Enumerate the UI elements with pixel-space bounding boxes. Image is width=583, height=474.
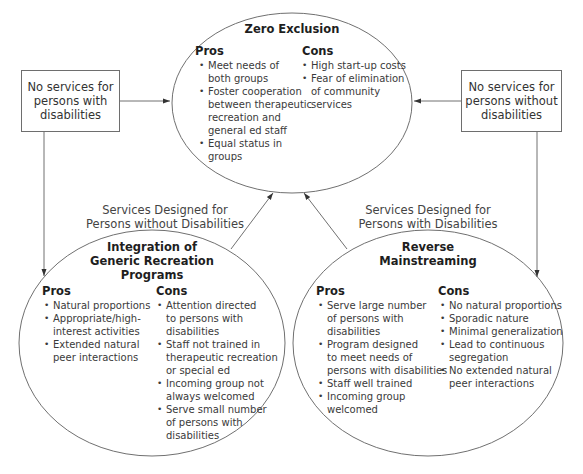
integration-pros-heading: Pros (42, 284, 71, 298)
services-without-disabilities-label: Services Designed for Persons without Di… (80, 203, 250, 231)
list-item: Meet needs ofboth groups (199, 59, 312, 85)
zero-exclusion-title: Zero Exclusion (232, 22, 352, 36)
reverse-pros-heading: Pros (316, 284, 345, 298)
list-item: High start-up costs (302, 59, 406, 72)
list-item: Serve large numberof persons withdisabil… (318, 299, 447, 338)
no-services-with-disabilities-box: No services for persons with disabilitie… (21, 70, 120, 132)
list-item: Lead to continuoussegregation (440, 338, 563, 364)
list-item: Incoming groupwelcomed (318, 390, 447, 416)
list-item: Natural proportions (44, 299, 150, 312)
box-line: persons without (465, 94, 557, 108)
label-line: Persons without Disabilities (80, 217, 250, 231)
label-line: Persons with Disabilities (348, 217, 508, 231)
list-item: Sporadic nature (440, 312, 563, 325)
list-item: No natural proportions (440, 299, 563, 312)
reverse-mainstreaming-title: Reverse Mainstreaming (368, 240, 488, 268)
reverse-cons-heading: Cons (438, 284, 469, 298)
reverse-cons-list: No natural proportions Sporadic nature M… (440, 299, 563, 390)
list-item: Serve small numberof persons withdisabil… (157, 403, 278, 442)
title-line: Mainstreaming (368, 254, 488, 268)
list-item: No extended naturalpeer interactions (440, 364, 563, 390)
box-line: disabilities (28, 108, 114, 122)
list-item: Equal status ingroups (199, 137, 312, 163)
title-line: Integration of (82, 240, 222, 254)
list-item: Fear of eliminationof communityservices (302, 72, 406, 111)
list-item: Appropriate/high-interest activities (44, 312, 150, 338)
arrow-reverse-to-center (304, 193, 347, 249)
box-line: No services for (465, 80, 557, 94)
list-item: Incoming group notalways welcomed (157, 377, 278, 403)
integration-cons-list: Attention directedto persons withdisabil… (157, 299, 278, 442)
label-line: Services Designed for (80, 203, 250, 217)
list-item: Foster cooperationbetween therapeuticrec… (199, 85, 312, 137)
list-item: Program designedto meet needs ofpersons … (318, 338, 447, 377)
list-item: Minimal generalization (440, 325, 563, 338)
no-services-without-disabilities-box: No services for persons without disabili… (461, 70, 562, 132)
list-item: Staff not trained intherapeutic recreati… (157, 338, 278, 377)
list-item: Extended naturalpeer interactions (44, 338, 150, 364)
title-line: Reverse (368, 240, 488, 254)
box-line: No services for (28, 80, 114, 94)
zero-exclusion-pros-heading: Pros (195, 44, 224, 58)
zero-exclusion-cons-heading: Cons (302, 44, 333, 58)
list-item: Staff well trained (318, 377, 447, 390)
box-line: persons with (28, 94, 114, 108)
integration-title: Integration of Generic Recreation Progra… (82, 240, 222, 282)
integration-cons-heading: Cons (156, 284, 187, 298)
list-item: Attention directedto persons withdisabil… (157, 299, 278, 338)
services-with-disabilities-label: Services Designed for Persons with Disab… (348, 203, 508, 231)
label-line: Services Designed for (348, 203, 508, 217)
integration-pros-list: Natural proportions Appropriate/high-int… (44, 299, 150, 364)
reverse-pros-list: Serve large numberof persons withdisabil… (318, 299, 447, 416)
box-line: disabilities (465, 108, 557, 122)
zero-exclusion-cons-list: High start-up costs Fear of eliminationo… (302, 59, 406, 111)
zero-exclusion-pros-list: Meet needs ofboth groups Foster cooperat… (199, 59, 312, 163)
title-line: Generic Recreation (82, 254, 222, 268)
title-line: Programs (82, 268, 222, 282)
